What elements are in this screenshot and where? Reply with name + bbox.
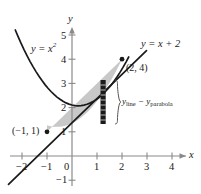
y-tick-label-1: 1 [61,127,66,138]
strip-brace [116,80,121,124]
y-tick-label-4: 4 [61,55,66,66]
strip-sub-line: line [126,100,136,107]
x-tick-label-0: 0 [64,162,69,173]
parabola-label: y = x2 [31,42,56,54]
x-tick-label-minus-2: −2 [16,162,27,173]
parabola-label-text: y = x [31,43,53,54]
y-tick-label-5: 5 [61,31,66,42]
x-tick-label-4: 4 [169,162,174,173]
line-label: y = x + 2 [141,39,180,50]
x-axis-label: x [189,150,194,161]
parabola-label-exponent: 2 [53,41,57,49]
strip-height-annotation: yline − yparabola [122,97,173,106]
intersection-point-right [120,57,125,62]
y-tick-label-2: 2 [61,103,66,114]
y-tick-label-minus-1: −1 [56,175,67,186]
figure-container: y x y = x2 y = x + 2 (−1, 1) (2, 4) ylin… [0,0,201,194]
intersection-point-left [45,129,50,134]
representative-strip [101,80,106,124]
x-axis-arrow [180,153,187,159]
x-tick-label-1: 1 [94,162,99,173]
point-label-left: (−1, 1) [12,126,39,136]
shaded-region [47,59,122,132]
x-tick-label-3: 3 [144,162,149,173]
point-label-right: (2, 4) [126,63,148,73]
x-tick-label-2: 2 [119,162,124,173]
y-axis-arrow [69,27,75,34]
x-tick-label-minus-1: −1 [41,162,52,173]
y-axis-label: y [68,14,73,25]
strip-sub-parabola: parabola [150,100,172,107]
y-tick-label-3: 3 [61,79,66,90]
